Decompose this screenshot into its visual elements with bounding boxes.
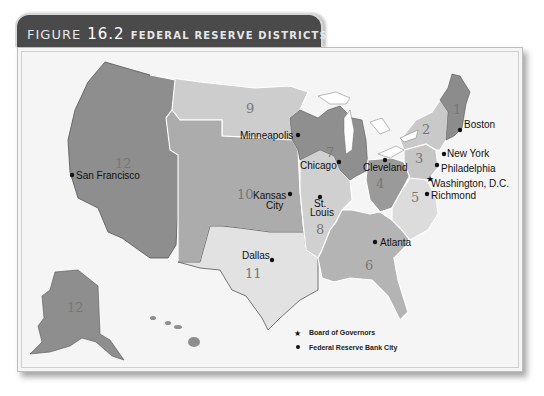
legend: ★ Board of Governors Federal Reserve Ban… xyxy=(294,329,397,352)
svg-text:Dallas: Dallas xyxy=(242,250,270,261)
svg-text:San Francisco: San Francisco xyxy=(76,170,140,181)
city-chicago: Chicago xyxy=(300,160,341,171)
district-number-12: 12 xyxy=(115,156,132,171)
star-icon: ★ xyxy=(294,329,301,338)
district-12-hawaii xyxy=(150,316,200,347)
svg-text:City: City xyxy=(266,200,283,211)
legend-item-board: ★ Board of Governors xyxy=(294,329,375,338)
legend-label-bank: Federal Reserve Bank City xyxy=(309,344,397,352)
district-number-6: 6 xyxy=(365,258,373,273)
city-richmond: Richmond xyxy=(425,190,476,201)
district-number-2: 2 xyxy=(422,122,430,137)
city-boston: Boston xyxy=(458,119,495,132)
city-washington-dc: ★ Washington, D.C. xyxy=(426,174,509,189)
svg-text:Louis: Louis xyxy=(310,207,334,218)
city-minneapolis: Minneapolis xyxy=(240,130,300,141)
svg-text:Chicago: Chicago xyxy=(300,160,337,171)
federal-reserve-map: 1 2 3 4 5 6 7 8 9 10 11 12 12 Boston New… xyxy=(0,0,544,396)
svg-text:Atlanta: Atlanta xyxy=(380,237,412,248)
district-number-7: 7 xyxy=(326,145,334,160)
district-number-10: 10 xyxy=(237,187,254,202)
city-philadelphia: Philadelphia xyxy=(435,163,496,174)
svg-text:Cleveland: Cleveland xyxy=(363,162,407,173)
svg-text:Minneapolis: Minneapolis xyxy=(240,130,293,141)
city-dallas: Dallas xyxy=(242,250,274,262)
district-number-12-alaska: 12 xyxy=(67,300,84,315)
svg-text:Richmond: Richmond xyxy=(431,190,476,201)
city-san-francisco: San Francisco xyxy=(70,170,141,181)
district-number-3: 3 xyxy=(415,151,423,166)
district-number-9: 9 xyxy=(246,101,254,116)
svg-text:Boston: Boston xyxy=(464,119,495,130)
district-number-11: 11 xyxy=(245,266,262,281)
dot-icon xyxy=(296,345,300,349)
svg-text:Philadelphia: Philadelphia xyxy=(441,163,496,174)
legend-item-bank: Federal Reserve Bank City xyxy=(296,344,397,352)
legend-label-board: Board of Governors xyxy=(309,329,375,336)
district-number-5: 5 xyxy=(411,190,419,205)
district-number-4: 4 xyxy=(376,176,384,191)
svg-text:New York: New York xyxy=(447,148,490,159)
district-number-8: 8 xyxy=(316,222,324,237)
city-new-york: New York xyxy=(442,148,490,159)
district-12-alaska xyxy=(30,270,124,360)
district-number-1: 1 xyxy=(453,102,461,117)
svg-text:Washington, D.C.: Washington, D.C. xyxy=(431,178,509,189)
